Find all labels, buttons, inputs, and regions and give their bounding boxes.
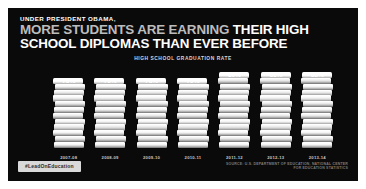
bar-column: [301, 72, 333, 148]
source-citation: SOURCE: U.S. DEPARTMENT OF EDUCATION, NA…: [218, 162, 348, 171]
bar-column: [94, 78, 126, 148]
headline-block: UNDER PRESIDENT OBAMA, MORE STUDENTS ARE…: [20, 15, 348, 50]
headline-segment-white: THEIR HIGH: [233, 22, 309, 37]
bar-category-label: 2008-09: [87, 155, 133, 160]
book-stack: [178, 78, 208, 148]
chart-title: HIGH SCHOOL GRADUATION RATE: [8, 56, 358, 61]
headline-line-1: MORE STUDENTS ARE EARNING THEIR HIGH: [20, 23, 348, 37]
headline-line-2: SCHOOL DIPLOMAS THAN EVER BEFORE: [20, 37, 348, 51]
book-unit: [261, 142, 291, 148]
bar-category-label: 2007-08: [46, 155, 92, 160]
book-unit: [178, 142, 208, 148]
book-stack: [219, 72, 249, 148]
bar-column: [177, 78, 209, 148]
book-stack: [95, 78, 125, 148]
book-stack: [54, 78, 84, 148]
bar-category-label: 2012-13: [253, 155, 299, 160]
bar-column: [53, 78, 85, 148]
book-unit: [137, 142, 167, 148]
bar-column: [218, 72, 250, 148]
headline-segment-grey: MORE STUDENTS ARE EARNING: [20, 22, 233, 37]
bar-category-label: 2009-10: [129, 155, 175, 160]
bar-category-label: 2010-11: [170, 155, 216, 160]
bar-category-label: 2011-12: [211, 155, 257, 160]
infographic-poster: UNDER PRESIDENT OBAMA, MORE STUDENTS ARE…: [8, 8, 358, 181]
book-stack: [261, 72, 291, 148]
bar-column: [136, 78, 168, 148]
bar-column: [260, 72, 292, 148]
hashtag-badge: #LeadOnEducation: [18, 161, 81, 172]
book-unit: [219, 142, 249, 148]
bar-chart-plot: 75%2007-0875%2008-0978%2009-1079%2010-11…: [48, 65, 338, 148]
book-unit: [302, 142, 332, 148]
book-unit: [54, 142, 84, 148]
book-stack: [137, 78, 167, 148]
bar-category-label: 2013-14: [294, 155, 340, 160]
book-unit: [95, 142, 125, 148]
book-stack: [302, 72, 332, 148]
